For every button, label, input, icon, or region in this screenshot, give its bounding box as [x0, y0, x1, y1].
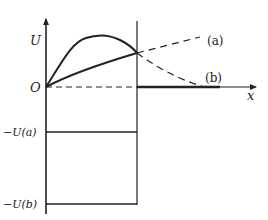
potential-energy-diagram: U O x (a) (b) −U(a) −U(b) [0, 0, 268, 220]
neg-ub-label: −U(b) [3, 198, 37, 211]
x-axis-label: x [247, 88, 255, 103]
neg-ua-label: −U(a) [3, 126, 37, 139]
curve-a-outside [137, 37, 200, 53]
y-axis-label: U [30, 33, 42, 48]
origin-label: O [30, 80, 41, 95]
curve-a-inside [46, 53, 137, 87]
curve-b-outside [137, 53, 204, 87]
curve-b-label: (b) [205, 71, 222, 85]
curve-a-label: (a) [207, 34, 224, 48]
